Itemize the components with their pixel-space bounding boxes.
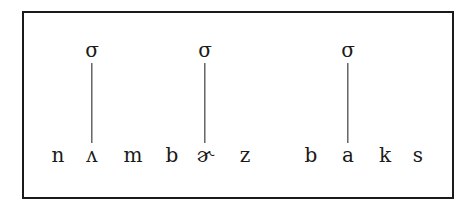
association-line-2	[204, 63, 205, 143]
segment-nucleus-wedge: ʌ	[86, 145, 97, 165]
segment-b: b	[166, 145, 179, 165]
segment-z: z	[240, 145, 251, 165]
segment-n: n	[52, 145, 65, 165]
segment-s: s	[413, 145, 423, 165]
segment-nucleus-rhotic-schwa: ɚ	[197, 145, 214, 165]
segment-k: k	[379, 145, 391, 165]
syllable-node-1: σ	[85, 40, 99, 60]
segment-m: m	[124, 145, 143, 165]
segment-b-2: b	[305, 145, 318, 165]
syllable-node-2: σ	[198, 40, 212, 60]
syllable-node-3: σ	[341, 40, 355, 60]
association-line-3	[347, 63, 348, 143]
association-line-1	[91, 63, 92, 143]
segment-nucleus-a: a	[342, 145, 354, 165]
